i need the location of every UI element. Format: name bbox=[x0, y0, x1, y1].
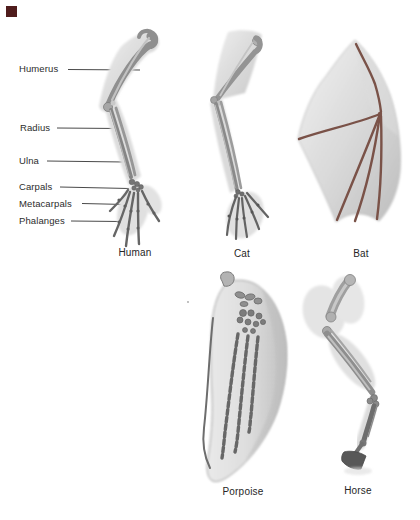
caption-human: Human bbox=[118, 247, 151, 258]
bone-label-radius: Radius bbox=[20, 123, 50, 133]
human-forelimb-illustration bbox=[99, 31, 167, 246]
porpoise-flipper-illustration bbox=[203, 272, 286, 482]
leader-line-carpals bbox=[60, 187, 129, 189]
caption-bat: Bat bbox=[353, 248, 369, 259]
bone-label-metacarpals: Metacarpals bbox=[19, 199, 72, 209]
leader-line-phalanges bbox=[71, 221, 121, 222]
leader-line-ulna bbox=[47, 161, 124, 162]
forelimb-illustration-svg bbox=[0, 0, 420, 520]
caption-porpoise: Porpoise bbox=[222, 486, 263, 497]
bone-label-humerus: Humerus bbox=[19, 64, 58, 74]
caption-cat: Cat bbox=[234, 248, 250, 259]
bone-label-carpals: Carpals bbox=[19, 182, 52, 192]
cat-forelimb-illustration bbox=[210, 30, 270, 243]
bone-label-ulna: Ulna bbox=[19, 156, 39, 166]
horse-leg-illustration bbox=[297, 273, 383, 475]
bone-label-phalanges: Phalanges bbox=[19, 216, 65, 226]
stray-speck bbox=[187, 301, 189, 303]
bat-wing-illustration bbox=[298, 40, 401, 222]
caption-horse: Horse bbox=[344, 485, 372, 496]
figure-homologous-forelimbs: Humerus Radius Ulna Carpals Metacarpals … bbox=[0, 0, 420, 520]
